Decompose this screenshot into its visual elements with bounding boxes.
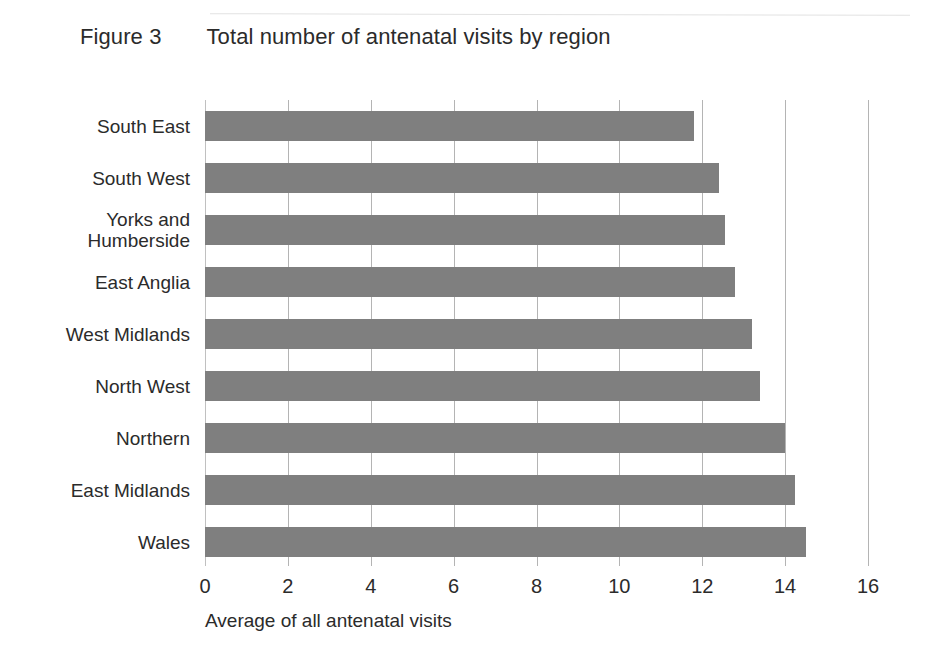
x-tick-label: 16 xyxy=(857,575,879,598)
category-label: South East xyxy=(0,100,190,152)
category-label: East Midlands xyxy=(0,464,190,516)
bar xyxy=(205,423,785,453)
bar xyxy=(205,215,725,245)
bar xyxy=(205,527,806,557)
bar xyxy=(205,475,795,505)
bar-row xyxy=(205,360,868,412)
x-tick-label: 6 xyxy=(448,575,459,598)
category-label: East Anglia xyxy=(0,256,190,308)
bar-row xyxy=(205,152,868,204)
x-tick-label: 8 xyxy=(531,575,542,598)
category-label-text: North West xyxy=(95,376,190,397)
category-label: North West xyxy=(0,360,190,412)
x-axis-title: Average of all antenatal visits xyxy=(205,610,452,632)
bar-row xyxy=(205,256,868,308)
category-label-text: South East xyxy=(97,116,190,137)
category-label-text: Northern xyxy=(116,428,190,449)
category-label: Wales xyxy=(0,516,190,568)
bar-row xyxy=(205,204,868,256)
category-label-text: East Midlands xyxy=(71,480,190,501)
category-axis-labels: South EastSouth WestYorks and Humberside… xyxy=(0,100,190,566)
category-label: West Midlands xyxy=(0,308,190,360)
category-label: Northern xyxy=(0,412,190,464)
x-tick-label: 4 xyxy=(365,575,376,598)
x-tick-label: 2 xyxy=(282,575,293,598)
category-label-text: Wales xyxy=(138,532,190,553)
category-label: Yorks and Humberside xyxy=(0,204,190,256)
x-tick-label: 0 xyxy=(199,575,210,598)
category-label-text: Yorks and Humberside xyxy=(88,209,190,251)
category-label-text: West Midlands xyxy=(66,324,190,345)
x-tick-label: 10 xyxy=(608,575,630,598)
bar-row xyxy=(205,464,868,516)
bar-chart: South EastSouth WestYorks and Humberside… xyxy=(0,0,944,670)
bar xyxy=(205,267,735,297)
bar xyxy=(205,319,752,349)
x-tick-label: 14 xyxy=(774,575,796,598)
category-label-text: South West xyxy=(92,168,190,189)
bar xyxy=(205,371,760,401)
x-axis-tick-labels: 0246810121416 xyxy=(205,575,868,601)
gridline-16 xyxy=(868,100,869,566)
plot-area xyxy=(205,100,868,566)
bar-row xyxy=(205,308,868,360)
bar xyxy=(205,163,719,193)
category-label: South West xyxy=(0,152,190,204)
bar-row xyxy=(205,100,868,152)
bar xyxy=(205,111,694,141)
bar-row xyxy=(205,516,868,568)
x-tick-label: 12 xyxy=(691,575,713,598)
category-label-text: East Anglia xyxy=(95,272,190,293)
bar-row xyxy=(205,412,868,464)
